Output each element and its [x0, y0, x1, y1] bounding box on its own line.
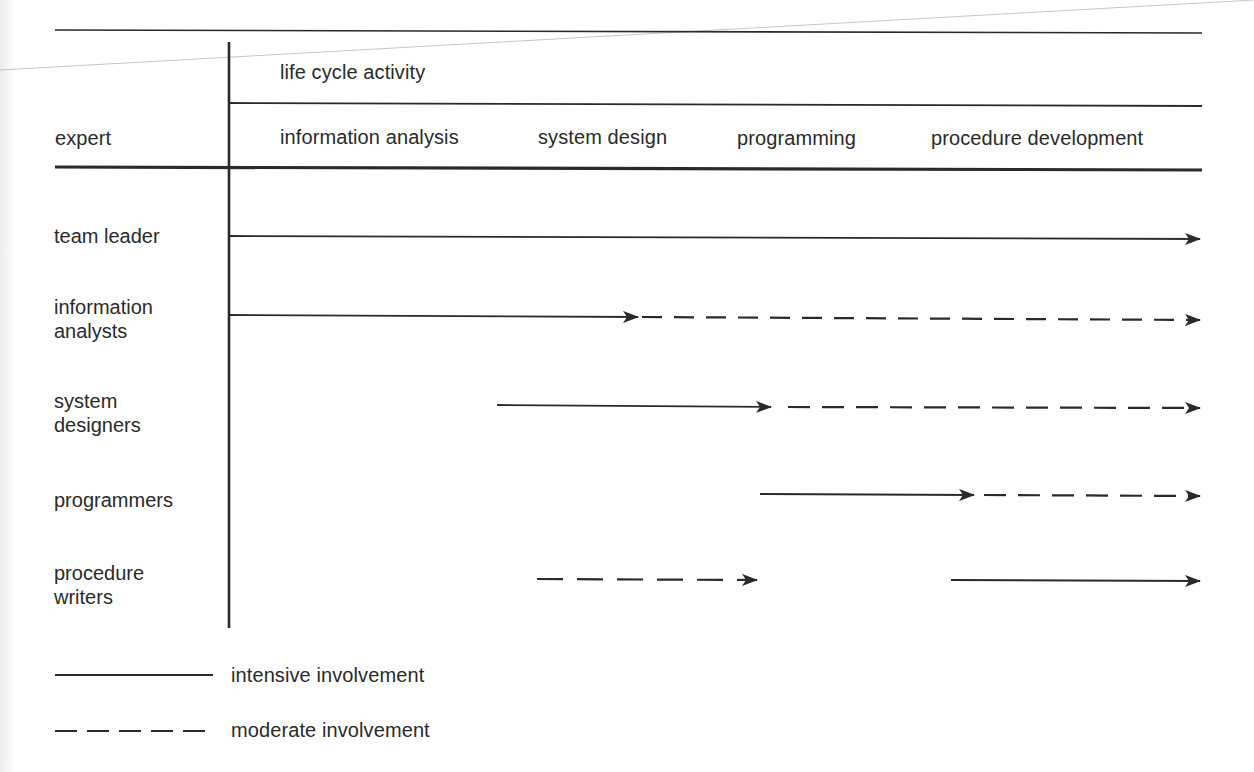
row-label-procedure-writers: procedure writers [54, 561, 144, 609]
column-header-information-analysis: information analysis [280, 125, 459, 149]
row-programmers-arrows [760, 494, 1200, 496]
column-header-programming: programming [737, 126, 856, 150]
legend-intensive-label: intensive involvement [231, 663, 424, 687]
row-label-system-designers: system designers [54, 389, 141, 437]
subheader-rule [229, 103, 1202, 106]
row-header-expert: expert [55, 126, 111, 150]
row-procedure-writers-arrows [537, 579, 1200, 581]
column-header-procedure-development: procedure development [931, 126, 1143, 150]
row-information-analysts-arrows [230, 315, 1200, 320]
column-group-header: life cycle activity [280, 60, 425, 84]
scan-artifact-line [0, 0, 1254, 70]
column-header-system-design: system design [538, 125, 667, 149]
row-label-information-analysts: information analysts [54, 295, 153, 343]
top-rule [55, 30, 1202, 33]
header-bottom-rule [55, 167, 1202, 170]
row-system-designers-arrows [497, 405, 1200, 408]
diagram-lines [0, 0, 1254, 772]
row-label-team-leader: team leader [54, 224, 160, 248]
row-team-leader-arrows [230, 236, 1200, 239]
row-label-programmers: programmers [54, 488, 173, 512]
legend-moderate-label: moderate involvement [231, 718, 430, 742]
